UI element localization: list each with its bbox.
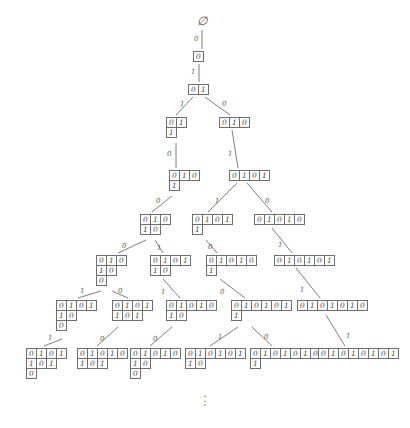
edge-label: 1 [215, 197, 219, 205]
word-cell: 0 [160, 214, 171, 225]
word-row: 0 [26, 368, 36, 378]
edge-label: 0 [167, 150, 171, 158]
tree-diagram: 011001010010110101100101∅001011010010101… [0, 0, 410, 428]
word-row: 0101010 [297, 300, 367, 310]
edge-label: 1 [48, 334, 52, 342]
word-row: 01010 [206, 255, 256, 265]
word-row: 10 [150, 265, 170, 275]
word-cell: 0 [150, 224, 161, 235]
edge-label: 0 [265, 197, 269, 205]
edge-label: 0 [100, 335, 104, 343]
word-row: 10 [56, 310, 76, 320]
edge-label: 1 [300, 286, 304, 294]
word-row: 0101 [112, 300, 152, 310]
word-row: 10 [140, 224, 160, 234]
tree-node-word: 0 [193, 51, 203, 61]
edge-label: 0 [118, 287, 122, 295]
word-row: 0 [193, 51, 203, 61]
word-cell: 0 [294, 214, 305, 225]
word-row: 010 [169, 170, 199, 180]
word-row: 10 [130, 358, 150, 368]
word-row: 010 [219, 117, 249, 127]
word-cell: 1 [235, 348, 246, 359]
word-cell: 1 [222, 214, 233, 225]
word-cell: 1 [142, 300, 153, 311]
word-row: 01010 [130, 348, 180, 358]
word-row: 101 [26, 358, 56, 368]
word-cell: 0 [239, 117, 250, 128]
edge-label: 0 [208, 243, 212, 251]
edge-label: 1 [80, 287, 84, 295]
edge-label: 1 [191, 68, 195, 76]
word-row: 0101 [229, 170, 269, 180]
edge-label: 1 [218, 333, 222, 341]
word-row: 010 [140, 214, 170, 224]
edge-label: 1 [228, 150, 232, 158]
edge-label: 1 [157, 244, 161, 252]
word-cell: 1 [56, 348, 67, 359]
tree-node-word: 010100 [96, 255, 126, 285]
word-cell: 1 [46, 358, 57, 369]
word-row: 010101 [185, 348, 245, 358]
tree-node-word: 01011 [192, 214, 232, 234]
edge-label: 1 [278, 241, 282, 249]
tree-node-word: 0101 [169, 170, 199, 190]
tree-node-word: 01010 [140, 214, 170, 234]
tree-node-word: 011 [166, 117, 186, 137]
edge-label: 0 [264, 333, 268, 341]
word-cell: 0 [130, 368, 141, 379]
edge-label: 1 [161, 288, 165, 296]
word-cell: 0 [176, 310, 187, 321]
word-cell: 0 [170, 348, 181, 359]
edge-label: 0 [122, 242, 126, 250]
word-row: 1 [169, 180, 179, 190]
word-cell: 1 [206, 265, 217, 276]
word-cell: 0 [117, 348, 128, 359]
word-cell: 1 [231, 310, 242, 321]
word-cell: 1 [192, 224, 203, 235]
word-row: 0101010 [250, 348, 320, 358]
word-cell: 0 [96, 275, 107, 286]
tree-node-word: 01 [188, 84, 208, 94]
word-cell: 0 [106, 265, 117, 276]
tree-node-word: 0101010 [297, 300, 367, 310]
word-row: 0 [96, 275, 106, 285]
edge-label: 0 [156, 197, 160, 205]
edge-label: 1 [346, 332, 350, 340]
word-row: 10 [185, 358, 205, 368]
word-row: 0101 [56, 300, 96, 310]
word-cell: 1 [180, 255, 191, 266]
word-cell: 0 [116, 255, 127, 266]
word-row: 1 [231, 310, 241, 320]
root-empty-set: ∅ [197, 14, 207, 28]
tree-node-word: 01010101 [77, 348, 127, 368]
word-cell: 0 [56, 320, 67, 331]
word-row: 10 [96, 265, 116, 275]
tree-node-word: 010101 [206, 255, 256, 275]
word-row: 01010 [77, 348, 127, 358]
word-cell: 1 [166, 127, 177, 138]
word-cell: 1 [259, 170, 270, 181]
tree-node-word: 0101 [229, 170, 269, 180]
word-row: 0 [130, 368, 140, 378]
word-row: 101 [112, 310, 142, 320]
dot-3: . [197, 401, 213, 406]
word-cell: 1 [132, 310, 143, 321]
tree-node-word: 0101101 [112, 300, 152, 320]
word-cell: 1 [388, 348, 399, 359]
word-row: 01010 [254, 214, 304, 224]
word-cell: 0 [195, 358, 206, 369]
tree-node-word: 0101100 [56, 300, 96, 330]
tree-node-word: 010101 [274, 255, 334, 265]
tree-node-word: 01010101 [250, 348, 320, 368]
word-row: 010101 [231, 300, 291, 310]
word-row: 1 [192, 224, 202, 234]
word-cell: 1 [324, 255, 335, 266]
word-cell: 0 [193, 51, 204, 62]
edge-label: 1 [180, 100, 184, 108]
word-row: 0101 [26, 348, 66, 358]
word-row: 01010 [166, 300, 216, 310]
word-row: 1 [250, 358, 260, 368]
tree-node-word: 01010100 [130, 348, 180, 378]
word-row: 010 [96, 255, 126, 265]
